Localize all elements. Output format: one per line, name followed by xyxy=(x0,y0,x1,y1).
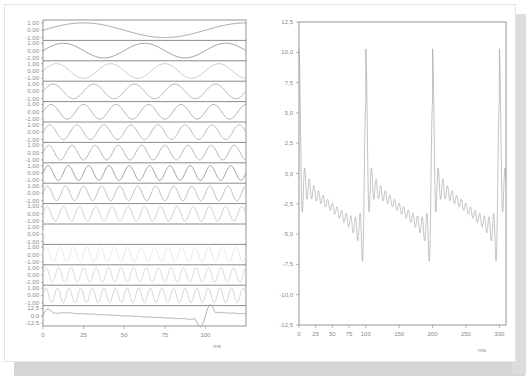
sum-waveform xyxy=(299,49,506,261)
strip-y-label: 0.00 xyxy=(27,211,39,217)
strip-waveform xyxy=(43,125,246,140)
x-tick-label: 150 xyxy=(394,331,405,337)
strip-y-label: 1.00 xyxy=(27,203,39,209)
strip-y-label: 0.00 xyxy=(27,292,39,298)
x-tick-label: 250 xyxy=(461,331,472,337)
strip-y-label: 1.00 xyxy=(27,183,39,189)
strip-y-label: 1.00 xyxy=(27,101,39,107)
x-tick-label: 0 xyxy=(297,331,301,337)
harmonics-strip-chart: 1.000.00-1.001.000.00-1.001.000.00-1.001… xyxy=(25,20,246,349)
x-axis-label: ms xyxy=(213,343,221,349)
strip-y-label: 1.00 xyxy=(27,81,39,87)
x-tick-label: 25 xyxy=(312,331,319,337)
strip-y-label: 0.00 xyxy=(27,48,39,54)
strip-y-label: -12.5 xyxy=(25,320,39,326)
strip-waveform xyxy=(43,84,246,99)
strip-y-label: 0.00 xyxy=(27,109,39,115)
strip-waveform xyxy=(43,43,246,58)
strip-waveform xyxy=(43,64,246,79)
y-tick-label: 10,0 xyxy=(281,49,293,55)
strip-waveform xyxy=(43,145,246,160)
y-tick-label: 12,5 xyxy=(281,19,293,25)
y-tick-label: 5,0 xyxy=(285,110,294,116)
y-tick-label: -5,0 xyxy=(283,231,294,237)
strip-waveform xyxy=(43,166,246,181)
strip-y-label: 0.00 xyxy=(27,190,39,196)
strip-waveform xyxy=(43,186,246,201)
strip-y-label: 1.00 xyxy=(27,224,39,230)
strip-y-label: 0.00 xyxy=(27,68,39,74)
y-tick-label: -12,5 xyxy=(279,322,293,328)
x-tick-label: 25 xyxy=(80,332,87,338)
strip-y-label: 12.5 xyxy=(27,305,39,311)
right-plot-frame xyxy=(299,22,506,325)
x-tick-label: 200 xyxy=(428,331,439,337)
figure: 1.000.00-1.001.000.00-1.001.000.00-1.001… xyxy=(0,0,531,384)
strip-y-label: 1.00 xyxy=(27,265,39,271)
strip-waveform xyxy=(43,23,246,38)
x-axis-label: ms xyxy=(478,347,486,353)
strip-y-label: 0.00 xyxy=(27,252,39,258)
y-tick-label: -10,0 xyxy=(279,292,293,298)
strip-waveform xyxy=(43,288,246,303)
strip-y-label: 0.00 xyxy=(27,150,39,156)
strip-y-label: 1.00 xyxy=(27,285,39,291)
x-tick-label: 100 xyxy=(361,331,372,337)
strip-waveform xyxy=(43,206,246,221)
x-tick-label: 100 xyxy=(200,332,211,338)
strip-y-label: 0.00 xyxy=(27,170,39,176)
strip-y-label: 0.00 xyxy=(27,272,39,278)
strip-y-label: 0.00 xyxy=(27,27,39,33)
strip-y-label: 1.00 xyxy=(27,20,39,26)
strip-y-label: 0.00 xyxy=(27,88,39,94)
y-tick-label: -7,5 xyxy=(283,261,294,267)
y-tick-label: 2,5 xyxy=(285,140,294,146)
x-tick-label: 50 xyxy=(329,331,336,337)
strip-waveform xyxy=(43,268,246,283)
strip-y-label: 1.00 xyxy=(27,163,39,169)
x-tick-label: 50 xyxy=(121,332,128,338)
y-tick-label: 7,5 xyxy=(285,80,294,86)
strip-y-label: 0.00 xyxy=(27,231,39,237)
strip-y-label: 1.00 xyxy=(27,122,39,128)
strip-waveform xyxy=(43,104,246,119)
strip-y-label: 1.00 xyxy=(27,244,39,250)
x-tick-label: 0 xyxy=(41,332,45,338)
strip-y-label: 0.00 xyxy=(27,129,39,135)
x-tick-label: 75 xyxy=(161,332,168,338)
strip-y-label: 0.0 xyxy=(31,313,40,319)
strip-y-label: 1.00 xyxy=(27,40,39,46)
x-tick-label: 300 xyxy=(494,331,505,337)
strip-waveform xyxy=(43,305,246,327)
strip-y-label: 1.00 xyxy=(27,142,39,148)
sum-waveform-chart: 12,510,07,55,02,50,0-2,5-5,0-7,5-10,0-12… xyxy=(279,19,506,353)
x-tick-label: 75 xyxy=(346,331,353,337)
strip-y-label: 1.00 xyxy=(27,61,39,67)
strip-waveform xyxy=(43,247,246,262)
strip-waveform xyxy=(43,227,246,242)
y-tick-label: -2,5 xyxy=(283,201,294,207)
y-tick-label: 0,0 xyxy=(285,171,294,177)
